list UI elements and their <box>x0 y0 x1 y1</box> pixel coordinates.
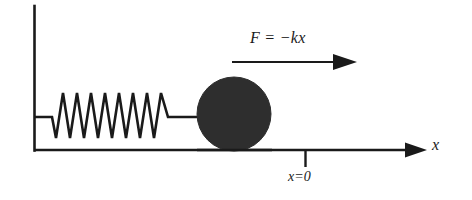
x-axis-label: x <box>432 137 439 153</box>
mass-ball <box>197 77 271 151</box>
spring-mass-diagram: F = −kx x x=0 <box>0 0 472 200</box>
origin-label: x=0 <box>288 170 311 184</box>
x-axis-arrowhead-icon <box>405 143 427 158</box>
force-formula-label: F = −kx <box>250 30 306 46</box>
force-arrowhead-icon <box>333 54 357 70</box>
spring-coil <box>34 93 199 138</box>
diagram-canvas <box>0 0 472 200</box>
